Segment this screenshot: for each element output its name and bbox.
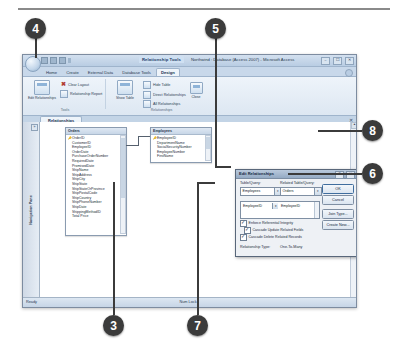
navigation-pane[interactable]: » Navigation Pane xyxy=(23,122,40,298)
save-icon[interactable] xyxy=(41,57,48,64)
direct-relationships-button[interactable]: Direct Relationships xyxy=(143,91,186,99)
ribbon: Edit Relationships ✖ Clear Layout Relati… xyxy=(23,77,356,116)
window-title: Northwind : Database (Access 2007) - Mic… xyxy=(191,57,294,62)
tab-create[interactable]: Create xyxy=(62,69,83,77)
related-table-query-label: Related Table/Query: xyxy=(280,181,315,185)
close-relationships-label: Close xyxy=(192,95,201,99)
ribbon-tab-strip: Home Create External Data Database Tools… xyxy=(23,67,356,77)
leader-line-6 xyxy=(288,173,362,175)
ribbon-group-tools: Edit Relationships ✖ Clear Layout Relati… xyxy=(26,78,104,112)
tab-external-data[interactable]: External Data xyxy=(84,69,117,77)
join-fields-grid[interactable]: EmployeeID ▾ EmployeeID xyxy=(240,201,320,219)
tab-design[interactable]: Design xyxy=(156,68,180,77)
tab-home[interactable]: Home xyxy=(42,69,61,77)
enforce-referential-integrity-checkbox[interactable]: Enforce Referential Integrity xyxy=(240,220,293,227)
relationship-type-value: One-To-Many xyxy=(280,245,302,249)
create-new-button[interactable]: Create New... xyxy=(322,220,354,230)
leader-line-8 xyxy=(318,130,362,132)
access-application-window: Relationship Tools Northwind : Database … xyxy=(22,54,357,308)
table-query-combo[interactable]: Employees ▾ xyxy=(240,187,282,196)
table-box-orders-title: Orders xyxy=(66,128,126,135)
relationship-type-label: Relationship Type: xyxy=(240,245,270,249)
dialog-title-text: Edit Relationships xyxy=(239,171,274,176)
table-box-orders-fields: OrderID CustomerID EmployeeID OrderDate … xyxy=(66,135,126,220)
callout-5: 5 xyxy=(205,18,226,39)
join-left-field-value: EmployeeID xyxy=(243,204,262,208)
chevron-down-icon[interactable]: ▾ xyxy=(314,188,321,195)
leader-line-7-h xyxy=(197,182,215,184)
chevron-down-icon[interactable]: ▾ xyxy=(272,203,278,209)
table-box-employees-title: Employees xyxy=(151,128,211,135)
scroll-up-button[interactable]: ▲ xyxy=(351,122,356,129)
leader-line-5-h xyxy=(215,166,231,168)
hide-table-label: Hide Table xyxy=(153,83,170,87)
office-orb-button[interactable] xyxy=(25,56,41,72)
join-right-field-cell[interactable]: EmployeeID xyxy=(280,203,315,209)
show-table-icon xyxy=(117,80,133,95)
related-table-query-combo[interactable]: Orders ▾ xyxy=(280,187,322,196)
edit-relationships-dialog: Edit Relationships ? ✕ Table/Query: Rela… xyxy=(235,169,357,257)
checkbox-icon[interactable] xyxy=(240,234,247,241)
table-query-value: Employees xyxy=(243,189,261,193)
edit-relationships-button[interactable]: Edit Relationships xyxy=(27,80,57,100)
navigation-pane-expand-icon[interactable]: » xyxy=(31,124,38,131)
relationship-report-button[interactable]: Relationship Report xyxy=(60,90,102,98)
clear-layout-button[interactable]: ✖ Clear Layout xyxy=(60,82,102,88)
scrollbar-thumb[interactable] xyxy=(206,137,210,149)
ribbon-group-tools-label: Tools xyxy=(26,108,104,112)
relationship-line-h2[interactable] xyxy=(138,136,150,137)
join-type-button[interactable]: Join Type... xyxy=(322,209,354,219)
checkbox-icon[interactable] xyxy=(240,220,247,227)
table-box-orders[interactable]: Orders OrderID CustomerID EmployeeID Ord… xyxy=(65,127,127,236)
all-relationships-icon xyxy=(143,100,151,108)
relationship-line-h1[interactable] xyxy=(126,145,138,146)
navigation-pane-label: Navigation Pane xyxy=(29,195,33,225)
undo-icon[interactable] xyxy=(50,57,57,64)
table-box-employees-scrollbar[interactable] xyxy=(205,135,211,161)
related-table-query-value: Orders xyxy=(283,189,294,193)
direct-relationships-label: Direct Relationships xyxy=(153,93,186,97)
relationship-report-label: Relationship Report xyxy=(70,92,102,96)
direct-relationships-icon xyxy=(143,91,151,99)
checkbox-icon[interactable] xyxy=(244,227,251,234)
join-grid-scrollbar[interactable] xyxy=(314,202,319,218)
field-item[interactable]: FirstName xyxy=(151,154,211,159)
scrollbar-thumb[interactable] xyxy=(121,138,125,198)
join-left-field-cell[interactable]: EmployeeID ▾ xyxy=(242,203,278,209)
hide-table-icon xyxy=(143,81,151,89)
dialog-title-bar: Edit Relationships ? ✕ xyxy=(236,170,356,179)
table-box-employees-fields: EmployeeID DepartmentName SocialSecurity… xyxy=(151,135,211,160)
ok-button[interactable]: OK xyxy=(322,184,354,194)
all-relationships-button[interactable]: All Relationships xyxy=(143,100,186,108)
minimize-button[interactable]: – xyxy=(321,57,330,65)
status-ready-text: Ready xyxy=(26,300,37,304)
redo-icon[interactable] xyxy=(59,57,66,64)
callout-6: 6 xyxy=(362,163,383,184)
close-button[interactable]: ✕ xyxy=(345,57,354,65)
table-box-employees[interactable]: Employees EmployeeID DepartmentName Soci… xyxy=(150,127,212,163)
status-bar: Ready Num Lock xyxy=(23,297,356,307)
cancel-button[interactable]: Cancel xyxy=(322,195,354,205)
maximize-button[interactable]: ☐ xyxy=(333,57,342,65)
table-query-label: Table/Query: xyxy=(240,181,261,185)
table-box-orders-scrollbar[interactable] xyxy=(120,135,126,234)
show-table-button[interactable]: Show Table xyxy=(110,80,140,100)
cascade-delete-checkbox[interactable]: Cascade Delete Related Records xyxy=(240,234,302,241)
cascade-update-checkbox[interactable]: Cascade Update Related Fields xyxy=(244,227,303,234)
ribbon-group-relationships: Show Table Hide Table Direct Relationshi… xyxy=(109,78,214,112)
help-icon[interactable] xyxy=(345,69,353,77)
hide-table-button[interactable]: Hide Table xyxy=(143,81,186,89)
leader-line-7 xyxy=(197,182,199,315)
edit-relationships-icon xyxy=(34,80,50,95)
callout-7: 7 xyxy=(187,315,208,336)
tab-database-tools[interactable]: Database Tools xyxy=(118,69,155,77)
field-item[interactable]: Total Price xyxy=(66,214,126,219)
contextual-tab-label: Relationship Tools xyxy=(139,56,184,63)
qat-customize-icon[interactable] xyxy=(68,58,71,63)
page-top-rule xyxy=(18,8,390,10)
leader-line-3 xyxy=(113,182,115,315)
callout-4: 4 xyxy=(25,18,46,39)
callout-8: 8 xyxy=(362,120,383,141)
relationship-line-v[interactable] xyxy=(138,136,139,146)
close-relationships-button[interactable]: Close xyxy=(185,82,207,99)
